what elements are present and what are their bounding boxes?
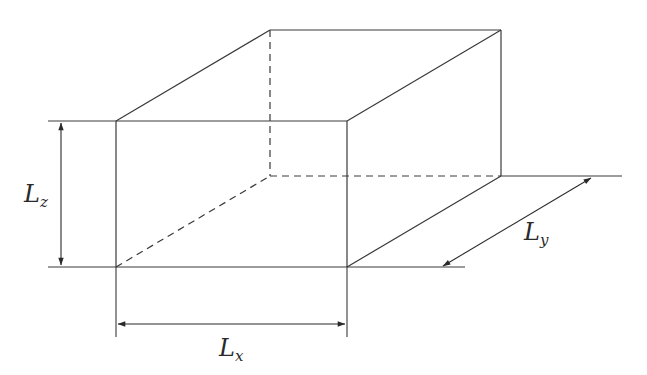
top-face xyxy=(116,30,501,121)
bottom-right-receding-edge xyxy=(347,176,501,267)
lz-dimension: Lz xyxy=(23,121,116,267)
lz-label: Lz xyxy=(23,180,48,211)
box-diagram: Lz Lx Ly xyxy=(0,0,647,375)
lx-dimension: Lx xyxy=(116,267,347,365)
ly-dimension: Ly xyxy=(347,176,622,267)
top-right-receding-edge xyxy=(347,30,501,121)
top-left-receding-edge xyxy=(116,30,270,121)
hidden-bottom-left-receding-edge xyxy=(116,176,270,267)
front-face xyxy=(116,121,347,267)
lx-label: Lx xyxy=(218,334,244,365)
hidden-edges xyxy=(116,30,501,267)
ly-label: Ly xyxy=(523,218,549,249)
ly-dimension-arrow xyxy=(443,178,591,266)
right-face xyxy=(347,30,501,267)
